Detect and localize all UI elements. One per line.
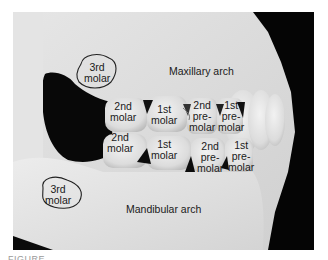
- mandibular-2nd-molar-label: 2nd molar: [107, 132, 133, 154]
- maxillary-arch-label: Maxillary arch: [169, 66, 234, 77]
- mandibular-1st-molar-label: 1st molar: [151, 139, 177, 161]
- mandibular-1st-premolar-label: 1st pre- molar: [228, 140, 254, 173]
- maxillary-3rd-molar-label: 3rd molar: [84, 62, 110, 84]
- maxillary-2nd-molar-label: 2nd molar: [110, 101, 136, 123]
- figure-caption-partial: FIGURE: [8, 254, 45, 260]
- maxillary-1st-premolar-label: 1st pre- molar: [218, 100, 244, 133]
- mandibular-arch-label: Mandibular arch: [126, 204, 201, 215]
- skull-photograph: Maxillary arch Mandibular arch 3rd molar…: [13, 12, 314, 250]
- maxillary-2nd-premolar-label: 2nd pre- molar: [189, 100, 215, 133]
- mandibular-3rd-molar-label: 3rd molar: [45, 184, 71, 206]
- maxillary-1st-molar-label: 1st molar: [151, 104, 177, 126]
- mandibular-2nd-premolar-label: 2nd pre- molar: [197, 141, 223, 174]
